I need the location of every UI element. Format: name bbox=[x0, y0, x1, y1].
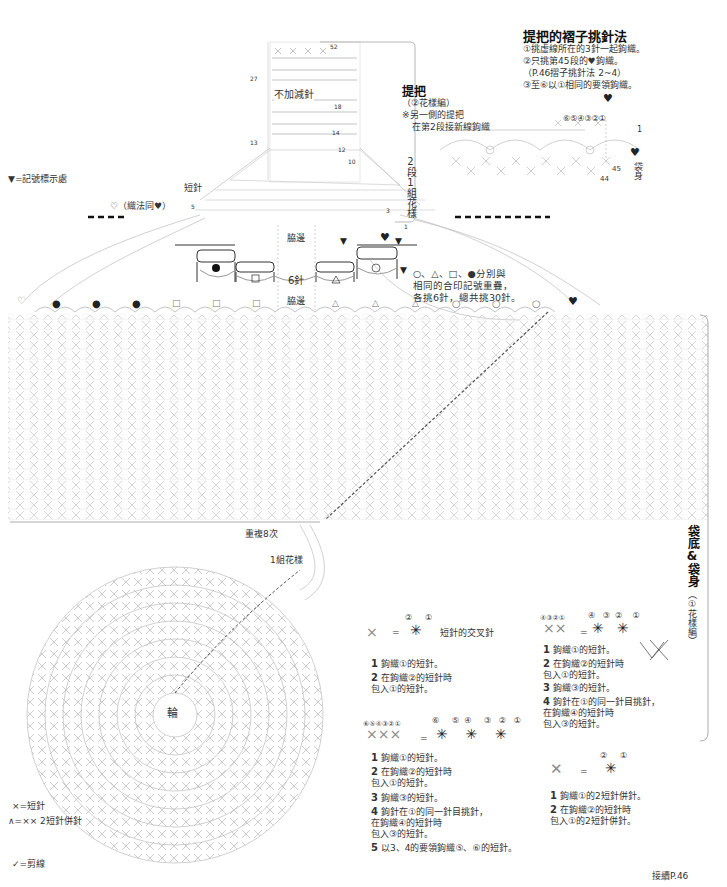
crossed-stitch-icon: ✳ ✳ ✳ bbox=[436, 726, 507, 742]
diagram3-step-5: 5以3、4的要領鉤織⑤、⑥的短針。 bbox=[371, 842, 517, 854]
pattern-repeat-label: 2段1組花樣 bbox=[404, 156, 416, 218]
pleat-marks: ⑥⑤④③②① bbox=[563, 113, 606, 125]
edge-circle: ○ bbox=[492, 298, 501, 309]
heart-icon: ♥ bbox=[630, 146, 640, 159]
pleat-body-label: 袋身 bbox=[632, 162, 644, 180]
pleat-step-2: ②只挑第45段的♥鉤織。 bbox=[523, 55, 623, 67]
crochet-chart-drawing bbox=[0, 0, 727, 887]
marker-icon: ▼ bbox=[395, 236, 402, 246]
one-set-label: 1組花樣 bbox=[270, 554, 303, 566]
diagram2-step-1: 1鉤織①的短針。 bbox=[543, 644, 615, 656]
diagram3-step-1: 1鉤織①的短針。 bbox=[371, 752, 443, 764]
legend-dec: ∧=⨯⨯ 2短針併針 bbox=[8, 815, 82, 827]
row-label-45: 45 bbox=[612, 163, 621, 175]
row-3: 3 bbox=[386, 205, 390, 217]
heart-icon: ♥ bbox=[603, 92, 613, 105]
diagram3-step-3: 3鉤織③的短針。 bbox=[371, 792, 443, 804]
side-label-top: 脇邊 bbox=[287, 232, 305, 244]
diagram4-step-2: 2在鉤織②的短針時 包入①的2短針併針。 bbox=[550, 804, 636, 827]
row-27: 27 bbox=[250, 73, 258, 85]
equals-sign: = bbox=[420, 732, 428, 744]
handle-chart bbox=[195, 42, 435, 222]
diagram1-step-1: 1鉤織①的短針。 bbox=[371, 658, 443, 670]
edge-triangle: △ bbox=[332, 298, 339, 308]
crossed-stitch-icon: ✳ ✳ bbox=[592, 620, 629, 636]
row-label-44: 44 bbox=[600, 173, 609, 185]
edge-triangle: △ bbox=[372, 298, 379, 308]
joining-note-2: 相同的合印記號重疊， bbox=[413, 280, 513, 292]
joining-note-3: 各挑6針，總共挑30針。 bbox=[413, 292, 521, 304]
row-14: 14 bbox=[332, 127, 340, 139]
center-ring-label: 輪 bbox=[167, 708, 178, 720]
row-label-1: 1 bbox=[637, 124, 642, 136]
open-heart-legend: ♡（織法同♥） bbox=[110, 200, 171, 212]
equals-sign: = bbox=[580, 626, 588, 638]
side-title: 袋底&袋身 bbox=[684, 525, 701, 587]
joining-note-1: ○、△、□、●分別與 bbox=[413, 268, 506, 280]
short-stitch-label: 短針 bbox=[184, 182, 202, 194]
row-10: 10 bbox=[348, 156, 356, 168]
row-52: 52 bbox=[330, 41, 338, 53]
row-12: 12 bbox=[338, 144, 346, 156]
edge-dot: ● bbox=[52, 298, 61, 309]
equals-sign: = bbox=[580, 765, 588, 777]
edge-dot: ● bbox=[92, 298, 101, 309]
marker-legend: ▼=記號標示處 bbox=[8, 173, 67, 185]
edge-heart: ♥ bbox=[568, 295, 578, 308]
edge-open-heart: ♡ bbox=[17, 295, 26, 306]
edge-triangle: △ bbox=[412, 298, 419, 308]
diagram1-step-2: 2在鉤織②的短針時 包入①的短針。 bbox=[371, 672, 452, 695]
edge-circle: ○ bbox=[452, 298, 461, 309]
repeat-label: 重複8次 bbox=[245, 528, 278, 540]
six-stitches-label: 6針 bbox=[288, 275, 304, 287]
edge-square: □ bbox=[212, 298, 221, 308]
continue-page-label: 接續P.46 bbox=[652, 870, 688, 882]
equals-sign: = bbox=[392, 626, 400, 638]
diagram2-step-3: 3鉤織③的短針。 bbox=[543, 682, 615, 694]
diagram4-step-1: 1鉤織①的2短針併針。 bbox=[550, 790, 646, 802]
cross-stitch-icon: × bbox=[366, 624, 378, 640]
body-stitch-grid bbox=[8, 315, 708, 520]
diagram2-step-4: 4鉤針在①的同一針目挑針， 在鉤織④的短針時 包入③的短針。 bbox=[543, 696, 660, 730]
triple-cross-icon: ××× bbox=[366, 726, 401, 742]
edge-square: □ bbox=[252, 298, 261, 308]
no-change-label: 不加減針 bbox=[274, 89, 314, 101]
pleat-step-1: ①挑虛線所在的3針一起鉤織。 bbox=[523, 43, 645, 55]
diagram3-step-2: 2在鉤織②的短針時 包入①的短針。 bbox=[371, 766, 452, 789]
row-1: 1 bbox=[404, 221, 408, 233]
handle-note-2: 在第2段接新線鉤織 bbox=[412, 121, 490, 133]
legend-cut: ✓=剪線 bbox=[12, 858, 45, 870]
marker-icon: ▼ bbox=[400, 265, 407, 275]
diagram1-name: 短針的交叉針 bbox=[440, 627, 494, 639]
pleat-step-3: ③至⑥以①相同的要領鉤織。 bbox=[523, 79, 637, 91]
row-13: 13 bbox=[250, 137, 258, 149]
row-18: 18 bbox=[334, 101, 342, 113]
diagram4-mark-1: ① bbox=[620, 750, 627, 762]
handle-subtitle: （②花樣編） bbox=[402, 97, 455, 109]
double-cross-icon: ×× bbox=[543, 620, 566, 636]
crossed-stitch-icon: ✳ bbox=[410, 622, 422, 638]
crossed-dec-icon: ✳ bbox=[605, 760, 617, 776]
diagram2-step-2: 2在鉤織②的短針時 包入①的短針。 bbox=[543, 658, 624, 681]
dec-cross-icon: ✕ bbox=[550, 760, 563, 778]
diagram1-mark-1: ① bbox=[425, 612, 432, 624]
pleat-step-ref: （P.46摺子挑針法 2~4） bbox=[523, 67, 626, 79]
row-5: 5 bbox=[191, 201, 195, 213]
handle-note-1: ※另一側的提把 bbox=[402, 109, 464, 121]
legend-sc: ×=短針 bbox=[12, 800, 45, 812]
heart-icon: ♥ bbox=[380, 231, 390, 244]
side-label-bottom: 脇邊 bbox=[287, 295, 305, 307]
side-subtitle: （①花樣編） bbox=[686, 590, 698, 645]
diagram3-step-4: 4鉤針在①的同一針目挑針， 在鉤織④的短針時 包入③的短針。 bbox=[371, 806, 488, 840]
marker-icon: ▼ bbox=[340, 236, 347, 246]
edge-square: □ bbox=[172, 298, 181, 308]
edge-dot: ● bbox=[132, 298, 141, 309]
edge-circle: ○ bbox=[532, 298, 541, 309]
